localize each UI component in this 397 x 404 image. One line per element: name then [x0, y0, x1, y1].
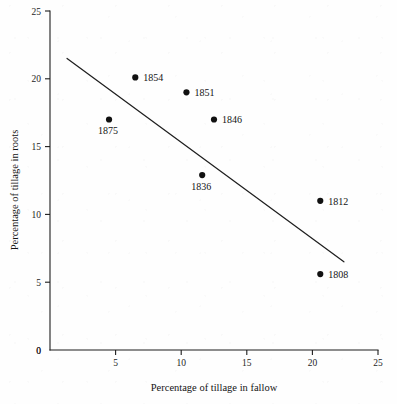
y-tick-label: 20 [32, 74, 42, 84]
plot-canvas: 0510152025 0510152025 187518541851184618… [0, 0, 397, 404]
data-point-marker [199, 172, 205, 178]
y-tick-label: 10 [32, 210, 42, 220]
x-axis-ticks: 0510152025 [36, 346, 383, 369]
x-tick-label: 20 [308, 358, 318, 368]
data-point-label: 1836 [191, 181, 211, 192]
data-point: 1851 [183, 87, 214, 98]
data-point: 1854 [132, 72, 163, 83]
x-tick-label: 5 [113, 358, 118, 368]
x-tick-label: 15 [242, 358, 252, 368]
data-points-group: 1875185418511846183618121808 [98, 72, 348, 280]
data-point-label: 1875 [98, 125, 118, 136]
data-point-label: 1846 [222, 114, 242, 125]
x-tick-label: 10 [176, 358, 186, 368]
data-point-marker [132, 74, 138, 80]
y-tick-label: 15 [32, 142, 42, 152]
data-point-marker [211, 116, 217, 122]
data-point-marker [106, 116, 112, 122]
y-axis-title: Percentage of tillage in roots [9, 130, 20, 251]
data-point: 1812 [317, 196, 348, 207]
data-point-marker [317, 271, 323, 277]
data-point: 1808 [317, 269, 348, 280]
y-tick-label: 5 [36, 278, 41, 288]
data-point: 1875 [98, 116, 118, 136]
x-tick-label: 25 [373, 358, 383, 368]
data-point: 1846 [211, 114, 242, 125]
data-point-marker [317, 198, 323, 204]
y-tick-label: 25 [32, 7, 42, 17]
data-point: 1836 [191, 172, 211, 192]
axes-group [50, 11, 378, 350]
data-point-label: 1854 [143, 72, 163, 83]
data-point-marker [183, 89, 189, 95]
x-axis-title: Percentage of tillage in fallow [151, 382, 278, 393]
data-point-label: 1808 [328, 269, 348, 280]
data-point-label: 1851 [194, 87, 214, 98]
scatter-plot-figure: 0510152025 0510152025 187518541851184618… [0, 0, 397, 404]
y-axis-ticks: 0510152025 [32, 7, 51, 356]
data-point-label: 1812 [328, 196, 348, 207]
x-tick-label-origin: 0 [36, 346, 41, 356]
